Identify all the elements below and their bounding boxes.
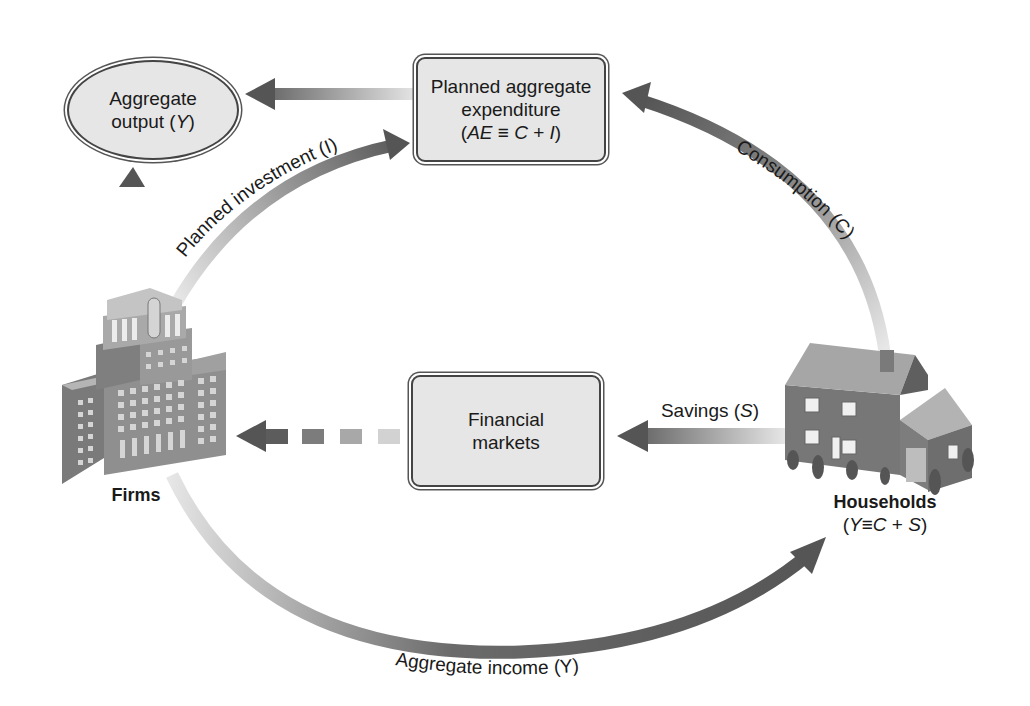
arrow-aggregate-income (172, 475, 826, 652)
node-aggregate-output: Aggregate output (Y) (67, 60, 239, 160)
financial-markets-line2: markets (472, 431, 540, 454)
expenditure-identity: (AE ≡ C + I) (461, 121, 561, 144)
triangle-up-icon (119, 167, 145, 187)
aggregate-output-line1: Aggregate (109, 87, 197, 110)
expenditure-line1: Planned aggregate (431, 75, 592, 98)
label-firms: Firms (96, 485, 176, 506)
label-savings: Savings (S) (655, 400, 765, 422)
node-financial-markets: Financial markets (411, 375, 601, 487)
financial-markets-line1: Financial (468, 408, 544, 431)
firms-building-icon (62, 288, 226, 484)
arrow-expenditure-to-output (245, 78, 413, 110)
expenditure-line2: expenditure (461, 98, 560, 121)
arrow-financial-to-firms (236, 420, 400, 452)
label-households-identity: (Y≡C + S) (815, 514, 955, 536)
arrow-savings (617, 420, 785, 452)
aggregate-output-line2: output (Y) (111, 110, 194, 133)
label-consumption: Consumption (C) (733, 135, 859, 242)
node-planned-aggregate-expenditure: Planned aggregate expenditure (AE ≡ C + … (416, 57, 606, 162)
label-households: Households (815, 492, 955, 513)
households-house-icon (785, 343, 974, 495)
